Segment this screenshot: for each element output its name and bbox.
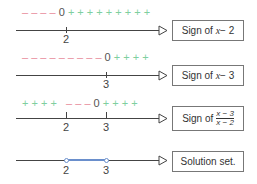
negative-signs: – – – – – – – – – — [22, 51, 102, 63]
tick-label: 3 — [100, 79, 112, 90]
label-box: Solution set. — [172, 151, 244, 172]
sign-chart: + + + + – – – 0 + + + + — [22, 98, 138, 109]
label-prefix: Sign of — [182, 70, 213, 81]
number-line — [16, 75, 161, 76]
label-box: Sign of x − 3 — [172, 65, 244, 86]
number-line — [16, 118, 161, 119]
open-circle-endpoint — [64, 158, 69, 163]
tick-label: 2 — [60, 34, 72, 45]
tick-label: 3 — [100, 165, 112, 176]
negative-signs: – – – – — [22, 6, 56, 18]
label-box: Sign of x − 2 — [172, 20, 244, 41]
arrow-head-icon — [158, 113, 168, 124]
tick-mark — [66, 112, 67, 118]
positive-signs: + + + + + + + + + — [68, 6, 150, 18]
number-line — [16, 30, 161, 31]
zero-marker: 0 — [59, 6, 65, 18]
tick-label: 2 — [60, 122, 72, 133]
open-circle-endpoint — [104, 158, 109, 163]
label-rest: − 3 — [220, 70, 234, 81]
numerator: x − 3 — [216, 110, 234, 118]
arrow-head-icon — [158, 155, 168, 166]
label-text: Solution set. — [180, 156, 235, 167]
solution-interval — [68, 159, 106, 161]
positive-signs: + + + + — [114, 51, 149, 63]
tick-label: 2 — [60, 165, 72, 176]
fraction: x − 3 x − 2 — [216, 110, 234, 127]
label-prefix: Sign of — [182, 113, 213, 124]
positive-signs-left: + + + + — [22, 97, 57, 109]
label-rest: − 2 — [220, 25, 234, 36]
denominator: x − 2 — [216, 119, 234, 127]
positive-signs: + + + + — [103, 97, 138, 109]
zero-marker: 0 — [105, 51, 111, 63]
sign-chart: – – – – 0 + + + + + + + + + — [22, 7, 150, 18]
negative-signs: – – – — [66, 97, 90, 109]
arrow-head-icon — [158, 70, 168, 81]
zero-marker: 0 — [94, 97, 100, 109]
tick-mark — [106, 112, 107, 118]
arrow-head-icon — [158, 25, 168, 36]
label-prefix: Sign of — [182, 25, 213, 36]
sign-chart: – – – – – – – – – 0 + + + + — [22, 52, 149, 63]
label-box: Sign of x − 3 x − 2 — [172, 106, 244, 131]
tick-label: 3 — [100, 122, 112, 133]
